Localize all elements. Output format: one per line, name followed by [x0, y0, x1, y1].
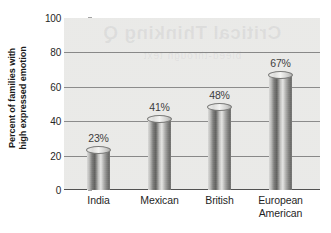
x-label-european-american-line-1: European [258, 194, 303, 207]
x-label-british-line-1: British [205, 194, 233, 207]
bar-cap-mexican [147, 115, 172, 123]
x-label-mexican-line-1: Mexican [140, 194, 178, 207]
x-label-india: India [87, 194, 109, 207]
y-tick-label-60: 60 [31, 81, 61, 92]
bar-mexican[interactable]: 41% [148, 119, 171, 190]
y-tick-label-100: 100 [31, 13, 61, 24]
plot-area: Critical Thinking Q bleed-through text 2… [64, 18, 320, 190]
y-tick-label-40: 40 [31, 116, 61, 127]
background-bleedthrough-text: Critical Thinking Q bleed-through text [64, 22, 320, 61]
y-tick-label-0: 0 [31, 185, 61, 196]
bar-india[interactable]: 23% [87, 150, 110, 190]
bar-value-european-american: 67% [270, 57, 290, 69]
y-axis-title-line-2: high expressed emotion [18, 46, 29, 149]
bar-value-british: 48% [209, 89, 229, 101]
x-label-european-american-line-2: American [258, 207, 303, 220]
bar-british[interactable]: 48% [208, 107, 231, 190]
watermark-line-1: Critical Thinking Q [103, 22, 281, 43]
bar-value-india: 23% [88, 132, 108, 144]
x-axis-labels: India Mexican British European American [64, 194, 320, 233]
bar-european-american[interactable]: 67% [269, 75, 292, 190]
y-axis-title-line-1: Percent of families with [7, 46, 18, 149]
x-label-mexican: Mexican [140, 194, 178, 207]
bar-cap-british [207, 103, 232, 111]
x-label-india-line-1: India [87, 194, 109, 207]
chart-figure: Percent of families with high expressed … [0, 0, 331, 233]
x-label-european-american: European American [258, 194, 303, 219]
bar-cap-india [86, 146, 111, 154]
y-axis-ticks: 100 80 60 40 20 0 [30, 0, 61, 233]
gridline-80 [64, 52, 320, 53]
y-tick-label-20: 20 [31, 150, 61, 161]
y-tick-label-80: 80 [31, 47, 61, 58]
bar-cap-european-american [268, 71, 293, 79]
x-label-british: British [205, 194, 233, 207]
bar-value-mexican: 41% [149, 101, 169, 113]
